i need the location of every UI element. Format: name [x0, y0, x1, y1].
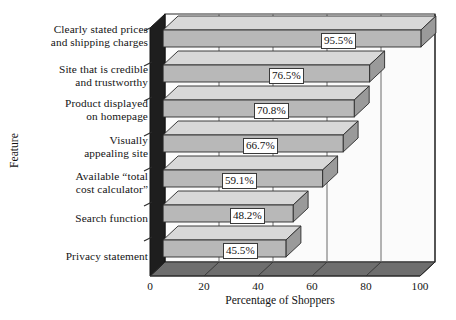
x-tick-label: 0	[130, 280, 170, 292]
bar-value-label: 70.8%	[254, 103, 289, 119]
bar-value-label: 59.1%	[222, 173, 257, 189]
plot-area	[0, 0, 456, 320]
bar-value-label: 95.5%	[321, 33, 356, 49]
floor-slab	[150, 262, 435, 276]
x-tick-label: 20	[184, 280, 224, 292]
bar-series-item	[163, 16, 436, 47]
x-tick-label: 40	[238, 280, 278, 292]
bar-value-label: 76.5%	[269, 68, 304, 84]
x-tick-label: 60	[292, 280, 332, 292]
bar-chart-figure: Feature Clearly stated prices and shippi…	[0, 0, 456, 320]
bar-value-label: 66.7%	[243, 138, 278, 154]
x-tick-label: 80	[346, 280, 386, 292]
x-axis-title: Percentage of Shoppers	[180, 294, 380, 307]
x-tick-label: 100	[400, 280, 440, 292]
bar-value-label: 45.5%	[223, 243, 258, 259]
bar-value-label: 48.2%	[230, 208, 265, 224]
